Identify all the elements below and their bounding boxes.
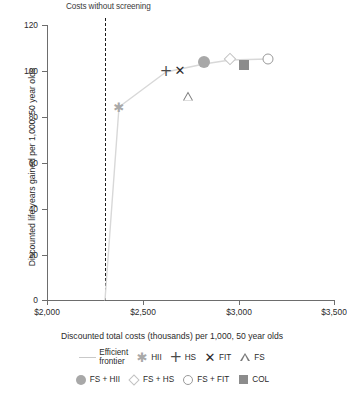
open-circle-icon	[182, 374, 194, 386]
y-tick-mark	[42, 25, 47, 26]
x-tick-label: $3,500	[321, 307, 347, 317]
x-tick-label: $2,000	[34, 307, 60, 317]
asterisk-icon: ✱	[136, 351, 148, 363]
legend-label-efficient-frontier-line1: Efficient	[99, 348, 128, 357]
data-point-fs-hii[interactable]	[198, 56, 210, 68]
data-point-hs[interactable]: +	[160, 64, 173, 79]
legend-item-fs[interactable]: FS	[239, 351, 264, 363]
x-tick-mark	[334, 300, 335, 305]
y-tick-mark	[42, 255, 47, 256]
x-axis-title: Discounted total costs (thousands) per 1…	[0, 331, 344, 341]
filled-square-icon	[237, 374, 249, 386]
legend-label-hs: HS	[185, 353, 196, 362]
legend-item-col[interactable]: COL	[237, 374, 269, 386]
y-tick-label: 0	[33, 295, 38, 305]
data-point-fit[interactable]: ✕	[175, 64, 186, 77]
y-tick-mark	[42, 117, 47, 118]
data-point-col[interactable]	[239, 60, 249, 70]
y-axis-line	[47, 25, 48, 301]
x-tick-mark	[47, 300, 48, 305]
x-tick-label: $2,500	[130, 307, 156, 317]
data-point-fs[interactable]	[183, 92, 193, 101]
x-tick-mark	[239, 300, 240, 305]
filled-circle-icon	[75, 374, 87, 386]
plus-icon: +	[170, 351, 182, 363]
legend-item-fit[interactable]: ✕ FIT	[204, 351, 231, 363]
legend-label-hii: HII	[151, 353, 161, 362]
diamond-icon	[128, 374, 140, 386]
legend-label-fs-fit: FS + FIT	[197, 375, 229, 384]
legend-label-col: COL	[252, 375, 269, 384]
legend-item-hs[interactable]: + HS	[170, 351, 196, 363]
chart-legend: Efficient frontier ✱ HII + HS ✕ FIT FS	[0, 348, 344, 386]
legend-label-fit: FIT	[219, 353, 231, 362]
legend-item-fs-hs[interactable]: FS + HS	[128, 374, 174, 386]
legend-item-efficient-frontier[interactable]: Efficient frontier	[79, 348, 128, 367]
x-tick-mark	[143, 300, 144, 305]
data-point-fs-hs[interactable]	[224, 53, 237, 66]
legend-item-fs-fit[interactable]: FS + FIT	[182, 374, 229, 386]
legend-label-fs: FS	[254, 353, 264, 362]
y-tick-label: 120	[24, 20, 38, 30]
line-icon	[79, 357, 96, 358]
data-point-hii[interactable]: ✱	[114, 101, 125, 114]
legend-row-2: FS + HII FS + HS FS + FIT COL	[0, 374, 344, 386]
x-tick-label: $3,000	[226, 307, 252, 317]
legend-label-efficient-frontier-line2: frontier	[99, 357, 128, 366]
y-axis-title: Discounted life years gained per 1,000, …	[27, 42, 37, 292]
triangle-icon	[239, 351, 251, 363]
y-tick-mark	[42, 163, 47, 164]
cross-icon: ✕	[204, 351, 216, 363]
y-tick-mark	[42, 71, 47, 72]
reference-line-annotation: Costs without screening	[66, 2, 151, 11]
y-tick-mark	[42, 209, 47, 210]
x-axis-line	[47, 300, 335, 301]
legend-row-1: Efficient frontier ✱ HII + HS ✕ FIT FS	[0, 348, 344, 367]
legend-item-fs-hii[interactable]: FS + HII	[75, 374, 120, 386]
reference-line-costs-without-screening	[105, 18, 106, 301]
legend-label-fs-hs: FS + HS	[143, 375, 174, 384]
legend-item-hii[interactable]: ✱ HII	[136, 351, 161, 363]
data-point-fs-fit[interactable]	[263, 54, 274, 65]
legend-label-fs-hii: FS + HII	[90, 375, 120, 384]
triangle-inner	[184, 94, 192, 101]
